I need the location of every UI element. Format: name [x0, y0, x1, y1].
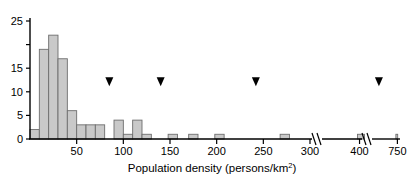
x-axis-tick-label: 150	[161, 145, 179, 157]
histogram-bar	[142, 134, 151, 139]
histogram-bar	[396, 134, 398, 139]
axis-break-mark	[312, 133, 316, 145]
x-axis-tick-label: 250	[254, 145, 272, 157]
axis-break-mark	[317, 133, 321, 145]
y-axis-tick-label: 15	[11, 62, 23, 74]
histogram-figure: 0510152550100150200250300400750Populatio…	[0, 0, 411, 184]
axis-break-mark	[367, 133, 371, 145]
histogram-bar	[77, 125, 86, 139]
histogram-bar	[86, 125, 95, 139]
down-triangle-marker	[375, 77, 383, 86]
histogram-bar	[67, 111, 76, 139]
x-axis-title: Population density (persons/km2)	[128, 161, 297, 174]
down-triangle-marker	[105, 77, 113, 86]
x-axis-tick-label: 400	[350, 145, 368, 157]
histogram-bar	[95, 125, 104, 139]
histogram-bar	[58, 59, 67, 139]
y-axis-tick-label: 5	[17, 109, 23, 121]
histogram-bar	[114, 120, 123, 139]
histogram-bar	[168, 134, 177, 139]
histogram-bar	[123, 134, 132, 139]
y-axis-tick-label: 25	[11, 15, 23, 27]
x-axis-tick-label: 750	[388, 145, 406, 157]
down-triangle-marker	[157, 77, 165, 86]
x-axis-tick-label: 100	[114, 145, 132, 157]
histogram-bar	[39, 49, 48, 139]
histogram-bar	[49, 35, 58, 139]
population-density-histogram: 0510152550100150200250300400750Populatio…	[0, 0, 411, 184]
histogram-bar	[30, 130, 39, 139]
y-axis-tick-label: 10	[11, 86, 23, 98]
histogram-bar	[189, 134, 198, 139]
histogram-bar	[280, 134, 289, 139]
histogram-bar	[133, 120, 142, 139]
down-triangle-marker	[252, 77, 260, 86]
x-axis-tick-label: 50	[71, 145, 83, 157]
y-axis-tick-label: 0	[17, 133, 23, 145]
x-axis-tick-label: 300	[301, 145, 319, 157]
histogram-bar	[215, 134, 224, 139]
x-axis-tick-label: 200	[207, 145, 225, 157]
